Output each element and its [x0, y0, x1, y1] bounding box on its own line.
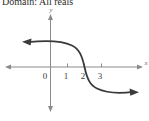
x-tick-label-2: 2 — [81, 71, 86, 81]
y-axis-bottom-arrowhead — [48, 106, 53, 112]
curve-right-arrowhead — [130, 89, 139, 96]
x-axis-label: x — [143, 59, 148, 67]
x-axis — [5, 64, 143, 69]
x-tick-label-1: 1 — [64, 71, 69, 81]
y-axis-label: y — [48, 6, 53, 14]
graph-figure: Domain: All reals 0 1 2 3 y x — [0, 0, 149, 121]
curve-left-arrowhead — [22, 38, 32, 45]
x-axis-right-arrowhead — [137, 64, 143, 69]
coordinate-plane: 0 1 2 3 y x — [0, 0, 149, 121]
y-axis-top-arrowhead — [48, 14, 53, 20]
x-axis-left-arrowhead — [5, 64, 11, 69]
x-tick-label-3: 3 — [98, 71, 103, 81]
y-axis — [48, 14, 53, 112]
x-tick-label-0: 0 — [43, 71, 48, 81]
